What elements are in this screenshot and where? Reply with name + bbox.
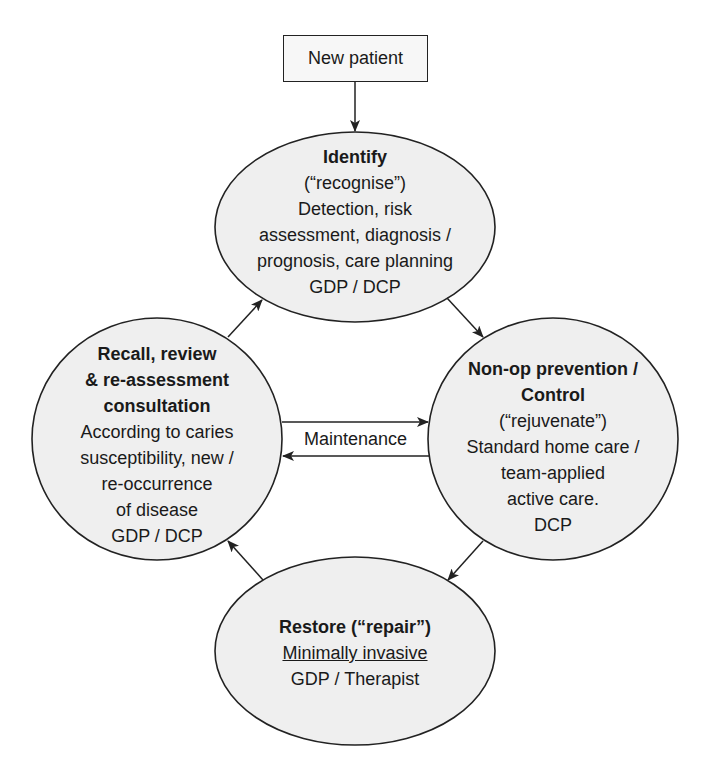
restore-underlined-line: Minimally invasive	[282, 643, 427, 663]
prevention-title-1: Non-op prevention /	[428, 356, 678, 382]
identify-body-4: GDP / DCP	[215, 274, 495, 300]
identify-title-1: Identify	[215, 144, 495, 170]
recall-node: Recall, review & re-assessment consultat…	[32, 341, 282, 549]
prevention-body-1: Standard home care /	[428, 434, 678, 460]
new-patient-label: New patient	[308, 48, 403, 69]
identify-to-prevention-arrow	[447, 298, 483, 337]
recall-body-3: re-occurrence	[32, 471, 282, 497]
prevention-body-2: team-applied	[428, 460, 678, 486]
prevention-title-3: (“rejuvenate”)	[428, 408, 678, 434]
recall-title-3: consultation	[32, 393, 282, 419]
recall-title-1: Recall, review	[32, 341, 282, 367]
prevention-to-restore-arrow	[448, 541, 483, 580]
maintenance-label: Maintenance	[283, 427, 428, 451]
restore-title: Restore (“repair”)	[215, 614, 495, 640]
identify-body-3: prognosis, care planning	[215, 248, 495, 274]
prevention-title-2: Control	[428, 382, 678, 408]
prevention-node: Non-op prevention / Control (“rejuvenate…	[428, 356, 678, 538]
prevention-body-4: DCP	[428, 512, 678, 538]
recall-to-identify-arrow	[228, 300, 262, 337]
recall-body-5: GDP / DCP	[32, 523, 282, 549]
identify-node: Identify (“recognise”) Detection, risk a…	[215, 144, 495, 300]
restore-node: Restore (“repair”) Minimally invasive GD…	[215, 614, 495, 692]
prevention-body-3: active care.	[428, 486, 678, 512]
recall-title-2: & re-assessment	[32, 367, 282, 393]
identify-title-2: (“recognise”)	[215, 170, 495, 196]
new-patient-box: New patient	[283, 35, 428, 82]
recall-body-2: susceptibility, new /	[32, 445, 282, 471]
recall-body-1: According to caries	[32, 419, 282, 445]
recall-body-4: of disease	[32, 497, 282, 523]
identify-body-2: assessment, diagnosis /	[215, 222, 495, 248]
restore-body-1: GDP / Therapist	[215, 666, 495, 692]
identify-body-1: Detection, risk	[215, 196, 495, 222]
